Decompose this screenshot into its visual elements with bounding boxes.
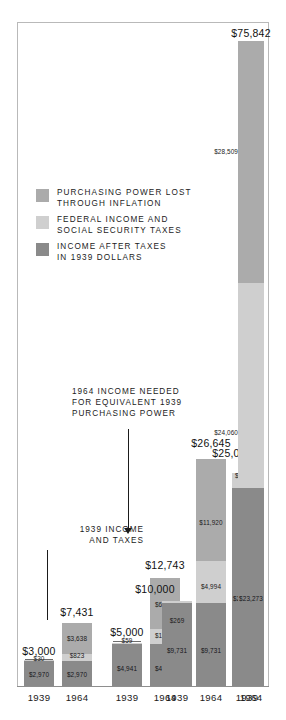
segment-label-inflation-8: $28,509 <box>212 148 238 155</box>
legend-label-taxes: FEDERAL INCOME AND SOCIAL SECURITY TAXES <box>57 215 182 236</box>
segment-label-income-5: $9,731 <box>162 647 192 654</box>
legend-swatch-taxes <box>36 216 49 229</box>
legend-item-taxes: FEDERAL INCOME AND SOCIAL SECURITY TAXES <box>36 215 226 236</box>
bar-1939-5000: $4,941 <box>112 643 142 686</box>
segment-income-5 <box>162 603 192 686</box>
legend-item-inflation: PURCHASING POWER LOST THROUGH INFLATION <box>36 188 226 209</box>
chart-legend: PURCHASING POWER LOST THROUGH INFLATION … <box>36 188 226 269</box>
xtick-2: 1964 <box>57 692 97 703</box>
segment-label-inflation-2: $3,638 <box>62 635 92 642</box>
xtick-8: 1964 <box>231 692 271 703</box>
segment-label-taxes-1: $30 <box>24 655 54 662</box>
segment-label-income-8: $23,273 <box>238 595 264 602</box>
xtick-3: 1939 <box>107 692 147 703</box>
segment-label-taxes-2: $823 <box>62 652 92 659</box>
segment-income-8 <box>238 488 264 686</box>
total-label-4: $12,743 <box>135 559 195 571</box>
bar-1939-3000: $2,970 <box>24 660 54 686</box>
segment-label-income-3: $4,941 <box>112 665 142 672</box>
legend-swatch-inflation <box>36 189 49 202</box>
segment-label-income-6: $9,731 <box>196 647 226 654</box>
segment-label-taxes-8: $24,060 <box>212 429 238 436</box>
segment-label-income-1: $2,970 <box>24 671 54 678</box>
segment-label-inflation-6: $11,920 <box>196 519 226 526</box>
segment-taxes-8 <box>238 283 264 488</box>
legend-label-income: INCOME AFTER TAXES IN 1939 DOLLARS <box>57 242 167 263</box>
xtick-6: 1964 <box>191 692 231 703</box>
annotation-1939-income-and-taxes: 1939 INCOME AND TAXES <box>40 524 144 546</box>
total-label-8: $75,842 <box>221 27 281 39</box>
bar-1964-75842: $23,273 $24,060 $28,509 <box>238 41 264 686</box>
xtick-1: 1939 <box>19 692 59 703</box>
segment-taxes-5 <box>162 601 192 603</box>
chart-canvas: PURCHASING POWER LOST THROUGH INFLATION … <box>0 0 286 720</box>
segment-inflation-6 <box>196 459 226 560</box>
annotation-1964-income-needed: 1964 INCOME NEEDED FOR EQUIVALENT 1939 P… <box>72 386 182 419</box>
bar-1939-10000-real: $9,731 $269 <box>162 601 192 686</box>
segment-label-taxes-3: $59 <box>112 637 142 644</box>
bar-1964-26645: $9,731 $4,994 $11,920 <box>196 459 226 686</box>
segment-inflation-8 <box>238 41 264 283</box>
segment-income-6 <box>196 603 226 686</box>
annotation-leader-line-1 <box>128 429 129 529</box>
legend-label-inflation: PURCHASING POWER LOST THROUGH INFLATION <box>57 188 192 209</box>
segment-label-taxes-6: $4,994 <box>196 583 226 590</box>
total-label-5: $10,000 <box>125 583 185 595</box>
total-label-2: $7,431 <box>47 606 107 618</box>
segment-label-taxes-5: $269 <box>162 617 192 624</box>
legend-item-income: INCOME AFTER TAXES IN 1939 DOLLARS <box>36 242 226 263</box>
legend-swatch-income <box>36 243 49 256</box>
bar-1964-7431: $2,970 $823 $3,638 <box>62 623 92 686</box>
axis-baseline <box>17 686 269 687</box>
segment-label-income-2: $2,970 <box>62 671 92 678</box>
